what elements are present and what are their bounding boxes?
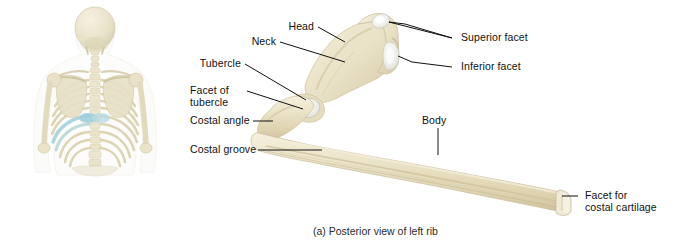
- label-superior-facet: Superior facet: [461, 31, 528, 44]
- label-facet-of-tubercle-line1: Facet of: [190, 84, 229, 97]
- label-tubercle: Tubercle: [173, 57, 241, 70]
- label-costal-groove: Costal groove: [190, 143, 256, 156]
- label-neck: Neck: [218, 35, 276, 48]
- figure-caption: (a) Posterior view of left rib: [313, 225, 438, 237]
- label-facet-of-tubercle-line2: tubercle: [190, 96, 228, 109]
- label-body: Body: [422, 114, 446, 127]
- label-costal-angle: Costal angle: [190, 114, 250, 127]
- label-head: Head: [258, 20, 314, 33]
- label-facet-for-costal-cartilage-line1: Facet for: [585, 189, 627, 202]
- label-inferior-facet: Inferior facet: [461, 60, 521, 73]
- label-facet-for-costal-cartilage-line2: costal cartilage: [585, 201, 657, 214]
- rib-anatomy-figure: Head Neck Tubercle Facet of tubercle Cos…: [0, 0, 673, 249]
- label-layer: Head Neck Tubercle Facet of tubercle Cos…: [0, 0, 673, 249]
